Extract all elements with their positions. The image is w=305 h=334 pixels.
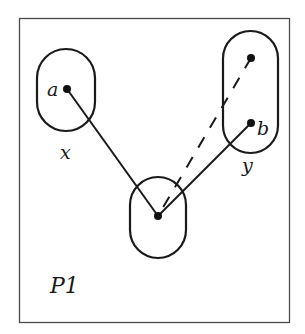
point-a bbox=[63, 85, 71, 93]
edge-a-center bbox=[67, 89, 158, 216]
label-point-b: b bbox=[257, 117, 269, 139]
label-region-y: y bbox=[241, 154, 253, 176]
label-point-a: a bbox=[47, 78, 58, 100]
label-region-x: x bbox=[60, 141, 71, 163]
diagram-canvas: a b x y P1 bbox=[0, 0, 305, 334]
region-y-blob bbox=[223, 31, 278, 153]
point-y-top bbox=[247, 54, 255, 62]
point-center bbox=[154, 212, 162, 220]
diagram-svg: a b x y P1 bbox=[0, 0, 305, 334]
edge-b-center bbox=[158, 123, 251, 216]
panel-label: P1 bbox=[49, 273, 79, 298]
point-b bbox=[247, 119, 255, 127]
